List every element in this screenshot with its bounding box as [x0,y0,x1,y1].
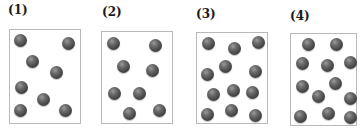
panel-label-1: (1) [8,3,28,17]
particle [149,39,162,52]
particle [312,90,325,103]
particle [123,107,136,120]
particle [344,56,357,69]
panel-label-2: (2) [102,5,122,19]
particle [249,65,262,78]
particle [322,107,335,120]
particle [201,68,214,81]
particle [321,59,334,72]
particle [50,66,63,79]
particle [246,86,259,99]
particle [14,34,27,47]
particle [59,104,72,117]
particle [344,111,357,124]
particle [153,104,166,117]
particle [329,77,342,90]
particle [133,87,146,100]
particle [37,93,50,106]
panel-label-3: (3) [196,7,216,21]
particle [302,38,315,51]
particle [201,108,214,121]
particle [207,88,220,101]
particle [344,92,357,105]
particle [202,37,215,50]
particle [146,64,159,77]
particle [249,109,262,122]
particle [26,55,39,68]
particle [296,80,309,93]
particle [15,81,28,94]
panel-label-4: (4) [290,9,310,23]
particle [252,36,265,49]
particle [62,37,75,50]
particle [219,60,232,73]
particle [294,110,307,123]
particle [227,84,240,97]
particle [296,57,309,70]
particle [330,38,343,51]
particle [225,104,238,117]
particle [107,37,120,50]
particle [117,60,130,73]
particle [14,104,27,117]
particle [228,42,241,55]
particle [108,87,121,100]
